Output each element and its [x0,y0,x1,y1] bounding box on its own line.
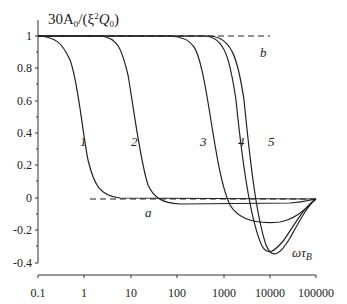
curve-label-b: b [260,45,267,60]
curve-label-3: 3 [199,134,207,149]
curve-3 [38,36,316,223]
y-tick-label: 0 [26,191,32,205]
y-tick-label: 1 [26,29,32,43]
y-tick-label: -0.4 [13,256,32,270]
x-tick-label: 100 [168,286,186,300]
x-tick-label: 1000 [212,286,236,300]
y-tick-label: 0.4 [17,126,32,140]
x-tick-label: 10000 [255,286,285,300]
curve-label-1: 1 [80,134,87,149]
curve-2 [38,36,316,204]
curve-label-a: a [145,205,152,220]
x-tick-label: 0.1 [31,286,46,300]
y-tick-label: 0.8 [17,61,32,75]
y-tick-label: 0.2 [17,158,32,172]
x-tick-label: 10 [125,286,137,300]
y-tick-label: 0.6 [17,94,32,108]
chart: 1 0.8 0.6 0.4 0.2 0 -0.2 -0.4 0.1 1 10 1… [0,0,347,304]
x-tick-label: 1 [81,286,87,300]
x-tick-label: 100000 [298,286,334,300]
curve-label-2: 2 [131,134,138,149]
y-tick-label: -0.2 [13,223,32,237]
curve-label-5: 5 [268,134,275,149]
curve-1 [38,36,316,199]
x-axis-title: ωτB [292,245,312,262]
y-tick-labels: 1 0.8 0.6 0.4 0.2 0 -0.2 -0.4 [13,29,32,270]
curve-label-4: 4 [238,134,245,149]
x-tick-labels: 0.1 1 10 100 1000 10000 100000 [31,286,335,300]
y-axis-title: 30A0/(ξ2Q0) [48,11,119,29]
